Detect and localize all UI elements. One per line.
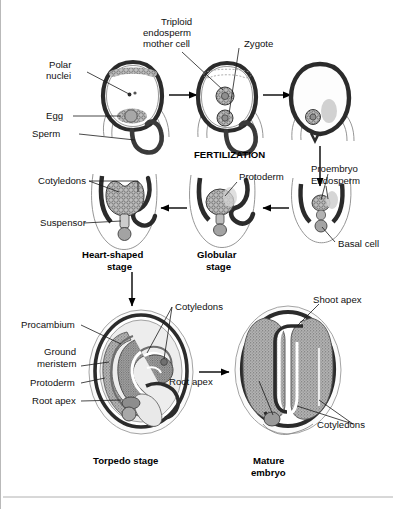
- heart-stage-name-line2: stage: [107, 261, 132, 272]
- label-cotyledons-heart: Cotyledons: [38, 175, 86, 186]
- label-proembryo: Proembryo: [311, 163, 358, 174]
- label-cotyledons-mature: Cotyledons: [317, 419, 365, 430]
- globular-stage-name-line2: stage: [206, 261, 231, 272]
- label-ground-meristem-line1: Ground: [44, 346, 76, 357]
- label-protoderm-torpedo: Protoderm: [30, 377, 75, 388]
- heart-stage-name-line1: Heart-shaped: [82, 249, 143, 260]
- ovule-stage-fertilization: [198, 63, 263, 153]
- label-polar-nuclei-line2: nuclei: [46, 70, 71, 81]
- label-triploid-line1: Triploid: [161, 16, 192, 27]
- label-endosperm: Endosperm: [311, 175, 360, 186]
- embryo-development-figure: FERTILIZATION: [0, 0, 394, 509]
- ovule-stage-unfertilized: [103, 62, 169, 152]
- label-polar-nuclei-line1: Polar: [49, 59, 72, 70]
- label-suspensor: Suspensor: [40, 217, 87, 228]
- globular-stage-name-line1: Globular: [197, 249, 237, 260]
- proembryo-stage-drawing: [292, 178, 351, 243]
- label-sperm: Sperm: [32, 128, 60, 139]
- label-ground-meristem-line2: meristem: [37, 358, 76, 369]
- label-basal-cell: Basal cell: [338, 238, 379, 249]
- label-protoderm-globular: Protoderm: [239, 171, 284, 182]
- label-egg: Egg: [46, 110, 63, 121]
- label-root-apex-mature: Root apex: [169, 376, 213, 387]
- ovule-stage-zygote: [291, 64, 354, 141]
- mature-embryo-name-line1: Mature: [253, 455, 284, 466]
- label-zygote: Zygote: [244, 38, 273, 49]
- label-root-apex-torpedo: Root apex: [32, 395, 76, 406]
- fertilization-caption: FERTILIZATION: [194, 149, 265, 160]
- mature-embryo-name-line2: embryo: [251, 467, 286, 478]
- plant-embryogenesis-diagram: FERTILIZATION: [1, 0, 394, 509]
- torpedo-stage-name: Torpedo stage: [93, 455, 158, 466]
- label-triploid-line2: endosperm: [143, 27, 191, 38]
- torpedo-stage-drawing: [89, 310, 193, 434]
- label-triploid-line3: mother cell: [143, 38, 190, 49]
- globular-stage-drawing: [190, 175, 255, 248]
- label-procambium: Procambium: [21, 319, 75, 330]
- label-shoot-apex: Shoot apex: [313, 294, 362, 305]
- label-cotyledons-torpedo: Cotyledons: [175, 301, 223, 312]
